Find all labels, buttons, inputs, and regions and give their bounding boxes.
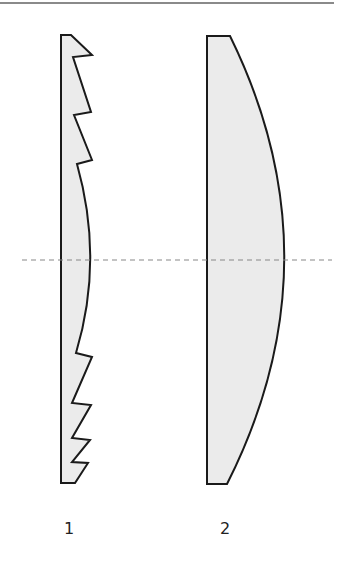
lens-comparison-diagram: [0, 0, 339, 566]
plano-convex-lens-shape: [207, 36, 284, 484]
fresnel-lens-shape: [61, 35, 92, 483]
plano-convex-lens-label: 2: [220, 521, 230, 537]
fresnel-lens-label: 1: [64, 521, 74, 537]
